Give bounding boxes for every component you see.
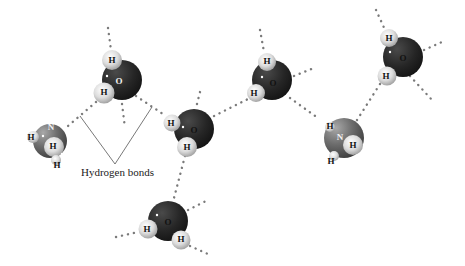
- hydrogen-bond-lines: [68, 10, 442, 254]
- hydrogen-label: H: [177, 234, 184, 244]
- hydrogen-bonds-caption: Hydrogen bonds: [81, 166, 154, 178]
- hydrogen-label: H: [183, 142, 190, 152]
- hydrogen-label: H: [327, 156, 334, 166]
- oxygen-label: O: [399, 53, 406, 63]
- nitrogen-label: N: [337, 132, 344, 142]
- water-molecule-1: O H H: [94, 50, 143, 104]
- oxygen-label: O: [269, 78, 276, 88]
- hydrogen-label: H: [108, 55, 115, 65]
- hydrogen-bonding-diagram: O H H N H H H H O H H O H: [0, 0, 465, 266]
- oxygen-label: O: [115, 76, 122, 86]
- hydrogen-label: H: [143, 224, 150, 234]
- water-molecule-5: H O H: [139, 201, 191, 250]
- hydrogen-label: H: [382, 71, 389, 81]
- ammonia-molecule-2: H N H H: [324, 118, 364, 166]
- hydrogen-label: H: [27, 132, 34, 142]
- hydrogen-label: H: [263, 56, 270, 66]
- hydrogen-label: H: [326, 121, 333, 131]
- oxygen-label: O: [164, 217, 171, 227]
- hydrogen-label: H: [385, 33, 392, 43]
- water-molecule-3: H O H: [247, 53, 292, 102]
- water-molecule-2: H O H: [164, 109, 215, 157]
- ammonia-molecule-1: N H H H: [27, 122, 67, 170]
- hydrogen-label: H: [167, 118, 174, 128]
- hydrogen-label: H: [100, 87, 107, 97]
- hydrogen-label: H: [49, 141, 56, 151]
- hydrogen-label: H: [250, 88, 257, 98]
- hydrogen-label: H: [53, 160, 60, 170]
- hydrogen-label: H: [349, 140, 356, 150]
- hydrogen-bonds-pointer: [80, 107, 152, 164]
- oxygen-label: O: [190, 125, 197, 135]
- water-molecule-4: H O H: [378, 29, 424, 86]
- nitrogen-label: N: [48, 122, 55, 132]
